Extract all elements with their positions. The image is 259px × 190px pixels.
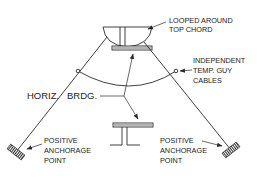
right-attachment-point [174, 69, 178, 73]
label-anchor-left-line1: POSITIVE [44, 136, 78, 145]
label-guy-line2: TEMP. GUY [193, 66, 232, 75]
label-brdg: BRDG. [67, 90, 97, 101]
label-top-chord-line1: LOOPED AROUND [169, 16, 233, 25]
leader-guy-cables [180, 70, 192, 71]
leader-brdg [100, 54, 138, 119]
label-anchor-right-line1: POSITIVE [160, 136, 194, 145]
label-horiz: HORIZ. [27, 90, 59, 101]
label-anchor-left-line2: ANCHORAGE [44, 146, 91, 155]
label-guy-line3: CABLES [193, 76, 222, 85]
rigging-diagram: LOOPED AROUND TOP CHORD INDEPENDENT TEMP… [0, 0, 259, 190]
leader-anchor-left [27, 144, 42, 149]
label-anchor-right-line3: POINT [160, 156, 183, 165]
label-top-chord-line2: TOP CHORD [169, 25, 213, 34]
horizontal-bridging-arc [78, 71, 176, 86]
label-guy-line1: INDEPENDENT [193, 56, 246, 65]
label-anchor-left-line3: POINT [44, 156, 67, 165]
left-attachment-point [76, 69, 80, 73]
right-anchor [222, 142, 240, 158]
leader-top-chord [148, 22, 166, 29]
bottom-chord-member [110, 123, 153, 145]
left-anchor [7, 144, 25, 160]
top-chord-member [103, 27, 152, 50]
label-anchor-right-line2: ANCHORAGE [160, 146, 207, 155]
